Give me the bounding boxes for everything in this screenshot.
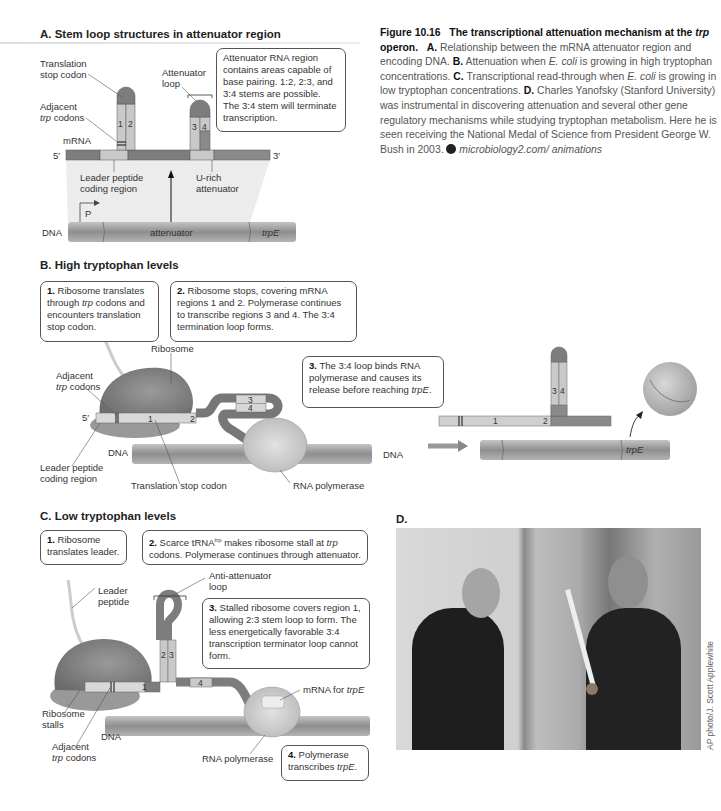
label-5-prime: 5′: [53, 150, 60, 161]
released-polymerase: [643, 362, 697, 416]
photo-head-right: [608, 556, 648, 608]
photo-yanofsky-medal: [396, 528, 701, 750]
callout-attenuator-region: Attenuator RNA region contains areas cap…: [216, 48, 346, 132]
animations-link[interactable]: microbiology2.com/ animations: [459, 144, 602, 155]
label-anti-attenuator: Anti-attenuatorloop: [209, 570, 271, 592]
photo-figure-left: [412, 608, 504, 750]
step-c4-callout: 4. Polymerase transcribes trpE.: [281, 745, 369, 781]
ribosome-large-subunit: [99, 368, 193, 420]
label-ribosome-b: Ribosome: [151, 343, 194, 354]
region-4-released: 4: [560, 386, 565, 397]
label-rna-pol-c: RNA polymerase: [202, 753, 273, 764]
label-5-prime-b: 5′: [82, 412, 89, 423]
step-c2-callout: 2. Scarce tRNAtrp makes ribosome stall a…: [142, 530, 368, 565]
animation-icon[interactable]: [446, 144, 456, 154]
region-2-released: 2: [543, 416, 548, 427]
region-2-b: 2: [190, 414, 195, 425]
photo-medal: [586, 683, 598, 695]
label-promoter: P: [85, 208, 91, 219]
region-4-c: 4: [198, 678, 203, 689]
step-b1-callout: 1. Ribosome translates through trp codon…: [40, 281, 159, 342]
region-1-b: 1: [148, 414, 153, 425]
label-attenuator-loop: Attenuatorloop: [162, 67, 206, 89]
step-c1-callout: 1. Ribosome translates leader.: [40, 530, 127, 565]
panel-c-heading: C. Low tryptophan levels: [40, 510, 176, 522]
photo-head-left: [462, 568, 500, 618]
label-3-prime: 3′: [273, 150, 280, 161]
dna-panel-c: [105, 716, 370, 736]
label-mrna: mRNA: [63, 135, 91, 146]
label-u-rich-attenuator: U-richattenuator: [196, 172, 239, 194]
figure-number: Figure 10.16: [380, 27, 441, 38]
region-3-released: 3: [552, 386, 557, 397]
stem-label-1: 1: [118, 119, 123, 130]
panel-d-heading: D.: [396, 513, 408, 525]
label-mrna-trpE: mRNA for trpE: [303, 684, 364, 695]
region-1-c: 1: [142, 682, 147, 693]
panel-b-heading: B. High tryptophan levels: [40, 259, 179, 271]
region-1-released: 1: [493, 416, 498, 427]
photo-figure-right: [586, 608, 681, 750]
label-dna-c: DNA: [101, 731, 121, 742]
label-stop-codon-b: Translation stop codon: [131, 480, 227, 491]
step-b2-callout: 2. Ribosome stops, covering mRNA regions…: [170, 281, 357, 342]
label-adjacent-b: Adjacenttrp codons: [56, 370, 100, 392]
label-adjacent-c: Adjacenttrp codons: [52, 741, 96, 763]
figure-caption: Figure 10.16 The transcriptional attenua…: [380, 26, 721, 157]
region-2-c: 2: [161, 650, 166, 661]
label-ribosome-stalls: Ribosomestalls: [42, 708, 85, 730]
photo-credit: AP photo/J. Scott Applewhite: [705, 641, 715, 750]
label-translation-stop: Translationstop codon: [40, 58, 87, 80]
step-c3-callout: 3. Stalled ribosome covers region 1, all…: [202, 598, 370, 669]
label-dna-a: DNA: [42, 227, 62, 238]
label-trpE-a: trpE: [262, 227, 279, 238]
label-dna-b: DNA: [108, 447, 128, 458]
stem-label-4: 4: [202, 122, 207, 133]
region-3-c: 3: [169, 650, 174, 661]
label-trpE-b: trpE: [626, 444, 643, 455]
region-4-b: 4: [248, 403, 253, 414]
stem-label-3: 3: [192, 122, 197, 133]
anti-attenuator-loop: [160, 594, 178, 640]
label-leader-b: Leader peptidecoding region: [40, 462, 103, 484]
label-attenuator: attenuator: [150, 227, 193, 238]
step-b3-callout: 3. The 3:4 loop binds RNA polymerase and…: [302, 356, 444, 408]
label-dna-b2: DNA: [383, 449, 403, 460]
stem-label-2: 2: [128, 119, 133, 130]
label-leader-peptide-c: Leaderpeptide: [98, 585, 129, 607]
label-rna-pol-b: RNA polymerase: [293, 480, 364, 491]
label-adjacent-trp-codons: Adjacenttrp codons: [40, 101, 84, 123]
rna-polymerase-b: [243, 418, 307, 472]
label-leader-peptide: Leader peptidecoding region: [80, 172, 143, 194]
